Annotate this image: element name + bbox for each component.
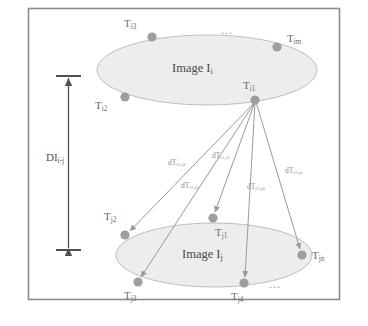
figure-canvas: Image Ii Image Ij Ti3 Tim Ti2 Ti1 Tj2 Tj… <box>0 0 368 326</box>
ellipsis-top: ... <box>221 24 233 36</box>
node-label-Tj1: Tj1 <box>215 227 227 240</box>
node-Ti1 <box>250 95 259 104</box>
node-label-Tjn: Tjn <box>312 250 324 263</box>
node-label-Tj3: Tj3 <box>124 290 136 303</box>
edge-label-Ti1-Tjn: dTi1-jn <box>285 167 303 176</box>
plane-label-i: Image Ii <box>172 62 213 76</box>
plane-label-j: Image Ij <box>182 248 223 262</box>
node-Tj4 <box>239 278 248 287</box>
node-label-Tj4: Tj4 <box>231 291 243 304</box>
node-Tj2 <box>120 230 129 239</box>
node-label-Ti2: Ti2 <box>95 100 107 113</box>
node-Tj3 <box>133 277 142 286</box>
node-Tjn <box>297 250 306 259</box>
node-label-Ti1: Ti1 <box>243 80 255 93</box>
edge-label-Ti1-Tj2: dTi1-j2 <box>168 159 186 168</box>
dimension-label: DIi-j <box>46 152 64 165</box>
node-label-Ti3: Ti3 <box>124 18 136 31</box>
node-Ti2 <box>120 92 129 101</box>
node-Tim <box>272 42 281 51</box>
edge-label-Ti1-Tj1: dTi1-j1 <box>212 152 230 161</box>
node-Ti3 <box>147 32 156 41</box>
node-label-Tim: Tim <box>287 33 301 46</box>
ellipsis-bottom: ... <box>269 278 281 290</box>
edge-label-Ti1-Tj4: dTi1-j4 <box>247 183 265 192</box>
edge-label-Ti1-Tj3: dTi1-j3 <box>181 182 199 191</box>
node-label-Tj2: Tj2 <box>104 211 116 224</box>
node-Tj1 <box>208 213 217 222</box>
